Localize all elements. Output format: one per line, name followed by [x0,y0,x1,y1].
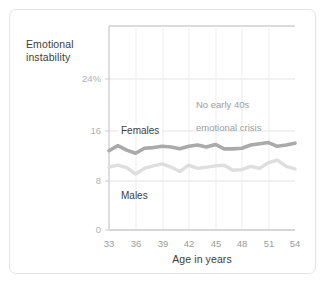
y-tick-label-8: 8 [63,175,101,186]
chart-annotation-line1: No early 40s [196,99,261,111]
x-tick-label-51: 51 [258,238,280,249]
y-tick-label-16: 16 [63,125,101,136]
x-axis-title: Age in years [109,253,295,265]
series-label-females: Females [118,125,162,136]
x-tick-label-45: 45 [205,238,227,249]
y-axis-title-line1: Emotional [26,38,136,51]
chart-annotation: No early 40s emotional crisis [196,87,261,145]
y-axis-title: Emotional instability [26,38,136,64]
series-line-males [109,160,295,174]
y-tick-label-0: 0 [63,224,101,235]
x-tick-label-36: 36 [125,238,147,249]
y-axis-title-line2: instability [26,51,136,64]
chart-card: Emotional instability 24% 16 8 0 33 36 3… [9,9,316,274]
x-tick-label-48: 48 [231,238,253,249]
chart-annotation-line2: emotional crisis [196,122,261,134]
series-label-males: Males [118,190,151,201]
y-tick-label-24: 24% [63,73,101,84]
x-tick-label-42: 42 [178,238,200,249]
chart-figure: Emotional instability 24% 16 8 0 33 36 3… [10,10,317,275]
x-tick-label-54: 54 [284,238,306,249]
x-tick-label-39: 39 [152,238,174,249]
x-tick-label-33: 33 [98,238,120,249]
